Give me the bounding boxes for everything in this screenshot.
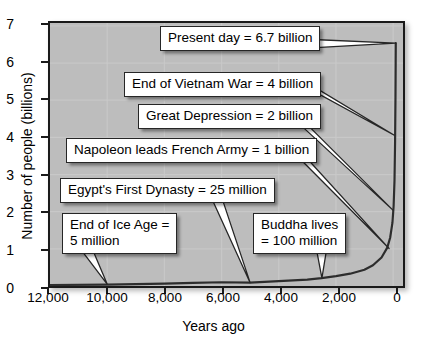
ytick-mark-6 bbox=[41, 61, 49, 63]
callout-great-depression[interactable]: Great Depression = 2 billion bbox=[138, 104, 321, 129]
callout-tail-egypt-dynasty bbox=[211, 195, 250, 282]
y-axis-title: Number of people (billions) bbox=[19, 36, 35, 276]
ytick-mark-7 bbox=[41, 23, 49, 25]
xtick-label-12000: 12,000 bbox=[27, 291, 68, 305]
callout-present-day[interactable]: Present day = 6.7 billion bbox=[160, 26, 320, 51]
ytick-label-7: 7 bbox=[0, 17, 14, 31]
ytick-mark-2 bbox=[41, 211, 49, 213]
ytick-label-6: 6 bbox=[0, 55, 14, 69]
ytick-mark-5 bbox=[41, 98, 49, 100]
callout-vietnam-war[interactable]: End of Vietnam War = 4 billion bbox=[124, 72, 321, 97]
callout-napoleon[interactable]: Napoleon leads French Army = 1 billion bbox=[66, 138, 317, 163]
xtick-label-0: 0 bbox=[393, 291, 401, 305]
x-axis-title: Years ago bbox=[0, 318, 427, 334]
ytick-label-4: 4 bbox=[0, 130, 14, 144]
callout-egypt-dynasty[interactable]: Egypt's First Dynasty = 25 million bbox=[60, 178, 275, 203]
xtick-label-2000: 2,000 bbox=[322, 291, 356, 305]
callout-buddha[interactable]: Buddha lives = 100 million bbox=[253, 213, 346, 254]
ytick-mark-3 bbox=[41, 174, 49, 176]
ytick-label-5: 5 bbox=[0, 92, 14, 106]
xtick-label-4000: 4,000 bbox=[264, 291, 298, 305]
xtick-label-10000: 10,000 bbox=[86, 291, 127, 305]
ytick-label-2: 2 bbox=[0, 205, 14, 219]
ytick-label-3: 3 bbox=[0, 168, 14, 182]
xtick-label-6000: 6,000 bbox=[206, 291, 240, 305]
xtick-label-8000: 8,000 bbox=[148, 291, 182, 305]
population-growth-chart: 0 1 2 3 4 5 6 7 12,000 10,000 8,000 6,00… bbox=[0, 0, 427, 346]
ytick-mark-4 bbox=[41, 136, 49, 138]
ytick-label-0: 0 bbox=[0, 281, 14, 295]
callout-ice-age[interactable]: End of Ice Age = 5 million bbox=[62, 213, 177, 254]
ytick-label-1: 1 bbox=[0, 243, 14, 257]
ytick-mark-1 bbox=[41, 249, 49, 251]
